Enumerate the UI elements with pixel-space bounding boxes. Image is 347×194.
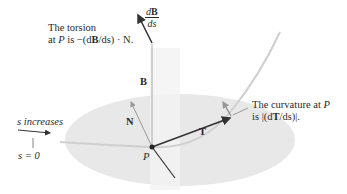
- curvature-vec: T: [272, 111, 279, 122]
- dB-ds-label: dB ds: [145, 6, 159, 29]
- curvature-line2: is |(dT/ds)|.: [252, 111, 330, 123]
- normal-plane: [150, 48, 180, 190]
- torsion-suffix: is −(d: [65, 34, 92, 45]
- frenet-frame-diagram: The torsion at P is −(dB/ds) · N. dB ds …: [0, 0, 347, 194]
- curvature-suffix: /ds)|.: [280, 111, 300, 122]
- torsion-line2: at P is −(dB/ds) · N.: [48, 34, 133, 46]
- curvature-line1: The curvature at P: [252, 99, 330, 111]
- s-increases-arrow: [18, 130, 50, 133]
- curvature-point: P: [323, 99, 329, 110]
- dB-num-vec: B: [151, 6, 158, 17]
- point-P: [150, 145, 155, 150]
- torsion-end: /ds) · N.: [99, 34, 134, 45]
- tangent-label: T: [199, 126, 206, 138]
- binormal-label: B: [140, 76, 147, 88]
- curvature-prefix: is |(d: [252, 111, 272, 122]
- s-increases-label: s increases: [17, 116, 63, 128]
- torsion-vec: B: [92, 34, 99, 45]
- curvature-text: The curvature at: [252, 99, 323, 110]
- dB-den: ds: [145, 18, 159, 29]
- normal-label: N: [126, 116, 134, 128]
- torsion-line1: The torsion: [48, 22, 133, 34]
- s-zero-label: s = 0: [18, 150, 40, 162]
- curvature-label: The curvature at P is |(dT/ds)|.: [252, 99, 330, 123]
- torsion-label: The torsion at P is −(dB/ds) · N.: [48, 22, 133, 46]
- torsion-prefix: at: [48, 34, 58, 45]
- point-P-label: P: [143, 151, 149, 163]
